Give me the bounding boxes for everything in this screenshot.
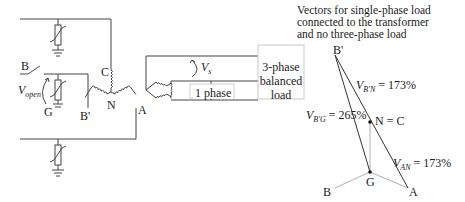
open-switch-icon [28, 66, 40, 74]
load-box-label: 3-phase balanced load [258, 60, 304, 102]
vector-label-b: B [323, 186, 331, 198]
load-line-2: balanced [258, 74, 304, 88]
node-g-dot [368, 170, 372, 174]
vector-title: Vectors for single-phase load connected … [297, 4, 465, 40]
v-s-arrow-icon [192, 60, 197, 77]
wye-winding-icon [85, 70, 136, 98]
surge-arrester-top-icon [50, 19, 66, 56]
load-line-3: load [258, 88, 304, 102]
delta-winding-icon [146, 81, 172, 99]
load-line-1: 3-phase [258, 60, 304, 74]
title-line-3: and no three-phase load [297, 28, 465, 40]
title-line-2: connected to the transformer [297, 16, 465, 28]
vector-label-a: A [409, 186, 418, 198]
label-v-open: Vopen [18, 84, 41, 101]
label-a: A [138, 104, 147, 116]
vector-label-n-eq-c: N = C [375, 115, 404, 127]
single-phase-label: 1 phase [193, 87, 233, 99]
title-line-1: Vectors for single-phase load [297, 4, 465, 16]
label-b-prime: B' [80, 110, 90, 122]
annotation-van: VAN = 173% [393, 157, 451, 174]
label-c: C [101, 66, 109, 78]
annotation-vbn: VB'N = 173% [356, 79, 416, 96]
label-v-s: Vs [201, 61, 211, 78]
surge-arrester-middle-icon [50, 74, 66, 107]
label-g: G [44, 106, 53, 118]
surge-arrester-bottom-icon [50, 139, 66, 176]
annotation-vbg: VB'G = 265% [306, 109, 366, 126]
v-open-arrow-icon [42, 78, 48, 104]
vector-label-g: G [366, 176, 375, 188]
label-n: N [107, 99, 116, 111]
node-n-dot [368, 120, 372, 124]
label-b: B [21, 60, 29, 72]
vector-label-b-prime: B' [333, 44, 343, 56]
